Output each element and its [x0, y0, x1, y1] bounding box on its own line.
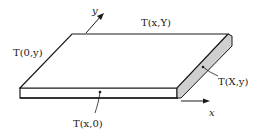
plate-diagram: y x T(x,Y) T(0,y) T(x,0) T(X,y): [0, 0, 264, 138]
x-axis-label: x: [209, 107, 215, 118]
y-axis-arrow: [86, 13, 104, 33]
plate-front-face: [20, 88, 177, 98]
top-boundary-label: T(x,Y): [141, 17, 171, 28]
left-boundary-label: T(0,y): [13, 47, 43, 58]
bottom-boundary-label: T(x,0): [73, 118, 103, 129]
plate-drawing: y x T(x,Y) T(0,y) T(x,0) T(X,y): [0, 0, 264, 138]
y-axis-label: y: [91, 5, 98, 16]
right-boundary-label: T(X,y): [218, 76, 249, 87]
x-axis-arrow: [181, 99, 210, 104]
